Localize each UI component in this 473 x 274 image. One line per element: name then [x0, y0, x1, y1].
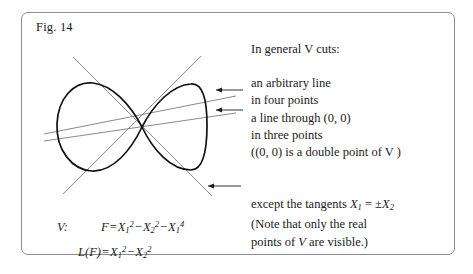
f-minus-1: − [134, 220, 143, 234]
f-minus-2: − [159, 220, 168, 234]
annotation-general-heading: In general V cuts: [251, 41, 340, 58]
through-origin-row-2: in three points [251, 127, 401, 144]
note-points-suffix: are visible.) [306, 235, 368, 249]
tangent-var-2: X [382, 197, 390, 211]
general-heading-text: In general V cuts: [251, 42, 340, 56]
annotation-except-tangents: except the tangents X1 = ±X2 (Note that … [251, 196, 394, 251]
except-prefix: except the tangents [251, 197, 350, 211]
arbitrary-line-row-1: an arbitrary line [251, 75, 331, 92]
through-origin-row-3: ((0, 0) is a double point of V ) [251, 144, 401, 161]
nodal-curve-right-lobe [142, 84, 207, 170]
f-term2-var: X [143, 220, 151, 234]
f-term3-sup: 4 [180, 219, 184, 229]
equation-lf-lhs: L(F) [57, 243, 101, 262]
lf-f: F [89, 245, 97, 259]
lf-term1-var: X [110, 245, 118, 259]
arrow-to-tangent-line [208, 184, 241, 189]
tangent-equality: = ± [362, 197, 382, 211]
lf-term2-var: X [135, 245, 143, 259]
lf-minus: − [126, 245, 135, 259]
lf-term2-sup: 2 [147, 244, 151, 254]
except-note-row-1: (Note that only the real [251, 216, 394, 233]
note-points-prefix: points of [251, 235, 298, 249]
tangent-line-positive-slope [63, 56, 201, 194]
equation-lf-equals: = [101, 245, 110, 259]
equation-row-lf: L(F)=X12−X22 [57, 240, 184, 265]
equation-block: V:F=X12−X22−X14 L(F)=X12−X22 [57, 215, 184, 265]
except-note-row-2: points of V are visible.) [251, 234, 394, 251]
note-variety-symbol: V [298, 235, 306, 249]
through-origin-row-1: a line through (0, 0) [251, 110, 401, 127]
f-term3-var: X [168, 220, 176, 234]
annotation-arbitrary-line: an arbitrary line in four points [251, 75, 331, 109]
figure-page: Fig. 14 In general V cuts: [0, 0, 473, 274]
arbitrary-line-row-2: in four points [251, 92, 331, 109]
variety-label: V: [57, 218, 101, 237]
lf-l: L [78, 245, 85, 259]
except-tangents-row: except the tangents X1 = ±X2 [251, 196, 394, 216]
annotation-line-through-origin: a line through (0, 0) in three points ((… [251, 110, 401, 162]
equation-f-lhs: F [101, 220, 109, 234]
equation-row-f: V:F=X12−X22−X14 [57, 215, 184, 240]
arrow-to-origin-line [216, 108, 243, 113]
arrow-to-arbitrary-line [216, 88, 243, 93]
tangent-var-2-sub: 2 [390, 202, 394, 212]
equation-f-equals: = [109, 220, 118, 234]
tangent-var-1: X [350, 197, 358, 211]
